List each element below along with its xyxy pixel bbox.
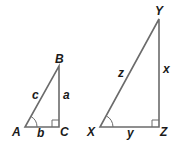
vertex-label-c: C (60, 125, 69, 139)
vertex-label-a: A (11, 125, 21, 139)
angle-arc-x (107, 116, 114, 127)
triangle-xyz-outline (100, 19, 159, 127)
similar-triangles-diagram: A B C a b c X Y Z x y z (0, 0, 178, 142)
right-angle-mark-z (152, 120, 159, 127)
vertex-label-x: X (86, 125, 96, 139)
side-label-a: a (63, 88, 70, 102)
side-label-y: y (126, 126, 135, 140)
triangle-abc: A B C a b c (11, 52, 70, 140)
triangle-xyz: X Y Z x y z (86, 4, 171, 140)
side-label-z: z (117, 66, 124, 80)
right-angle-mark-c (52, 120, 59, 127)
vertex-label-z: Z (159, 125, 168, 139)
side-label-x: x (162, 62, 171, 76)
side-label-b: b (37, 126, 44, 140)
side-label-c: c (32, 88, 39, 102)
vertex-label-y: Y (155, 4, 164, 18)
triangle-abc-outline (25, 66, 59, 127)
vertex-label-b: B (55, 52, 64, 66)
